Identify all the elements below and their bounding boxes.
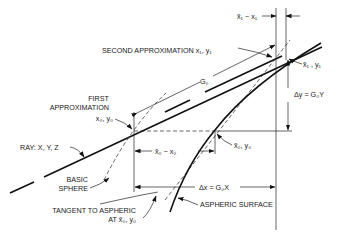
label-xtilde0-minus-x0: x̃₀ − x₀ <box>155 147 177 156</box>
label-xtilde1-minus-x1: x̃₁ − x₁ <box>237 12 258 21</box>
label-delta-x: Δx = G₀X <box>199 183 229 192</box>
label-tangent-1: TANGENT TO ASPHERIC <box>52 206 136 215</box>
aspheric-leader <box>178 198 198 205</box>
tangent-leader <box>100 192 158 204</box>
label-g0: G₀ <box>200 77 209 86</box>
xtilde0-leader <box>217 134 232 145</box>
tangent-line <box>165 40 290 200</box>
label-delta-y: Δy = G₀Y <box>294 90 324 99</box>
ray-line <box>44 47 322 177</box>
label-basic-sphere-1: BASIC <box>66 175 88 184</box>
label-aspheric-surface: ASPHERIC SURFACE <box>200 200 273 209</box>
basic-sphere-leader <box>90 178 109 188</box>
ray-line-lower <box>10 182 34 193</box>
label-xtilde0-y0: x̃₀, y₀ <box>234 141 252 150</box>
basic-sphere-curve <box>104 93 166 180</box>
label-tangent-2: AT x̃₀, y₀ <box>108 215 136 224</box>
label-ray: RAY: X, Y, Z <box>20 143 59 152</box>
x0-leader <box>115 119 132 129</box>
label-first-approx-1: FIRST <box>88 94 109 103</box>
label-first-approx-2: APPROXIMATION <box>50 103 109 112</box>
aspheric-ray-diagram: SECOND APPROXIMATION x₁, y₁ x̃₁ − x₁ x̃₁… <box>0 0 344 232</box>
ray-leader <box>70 147 84 157</box>
label-second-approximation: SECOND APPROXIMATION x₁, y₁ <box>102 46 212 55</box>
label-x0-y0: x₀, y₀ <box>96 114 113 123</box>
tangent-at-leader <box>143 196 156 218</box>
label-xtilde1-y1: x̃₁ , y₁ <box>303 60 322 69</box>
diagram-canvas: SECOND APPROXIMATION x₁, y₁ x̃₁ − x₁ x̃₁… <box>0 0 344 232</box>
label-basic-sphere-2: SPHERE <box>58 184 88 193</box>
